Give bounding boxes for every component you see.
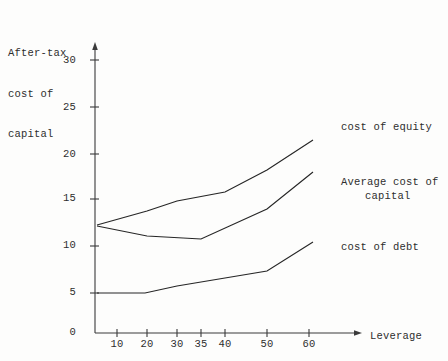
chart-figure: After-tax cost of capital Leverage 0 5 1… [0, 0, 448, 361]
curve-average-cost-of-capital [97, 172, 313, 239]
plot-area [0, 0, 448, 361]
y-axis [90, 42, 99, 333]
curve-cost-of-debt [97, 242, 313, 293]
x-axis-arrow-icon [354, 330, 362, 336]
curve-cost-of-equity [97, 140, 313, 225]
x-axis [95, 329, 362, 337]
y-axis-arrow-icon [92, 42, 98, 50]
